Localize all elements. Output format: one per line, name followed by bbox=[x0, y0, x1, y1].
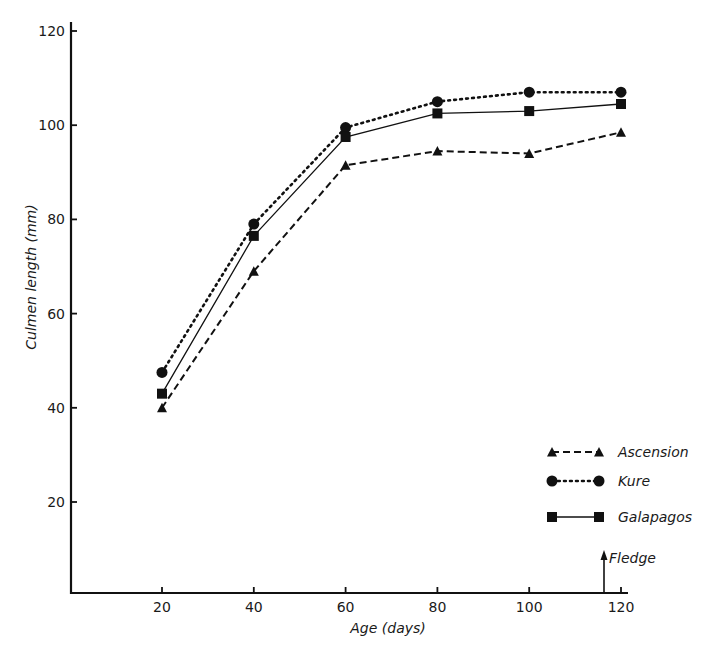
x-tick-label: 60 bbox=[337, 599, 355, 615]
x-axis-label: Age (days) bbox=[349, 620, 426, 636]
legend-item-galapagos: Galapagos bbox=[547, 509, 692, 525]
legend-label: Galapagos bbox=[618, 509, 692, 525]
circle-marker-icon bbox=[594, 476, 605, 487]
square-marker-icon bbox=[524, 106, 534, 116]
legend-item-kure: Kure bbox=[547, 473, 651, 489]
fledge-arrowhead-icon bbox=[601, 550, 608, 560]
square-marker-icon bbox=[616, 99, 626, 109]
circle-marker-icon bbox=[616, 87, 627, 98]
axes: 2040608010012020406080100120 bbox=[38, 22, 634, 615]
y-tick-label: 100 bbox=[38, 117, 65, 133]
circle-marker-icon bbox=[524, 87, 535, 98]
x-tick-label: 80 bbox=[428, 599, 446, 615]
series-kure bbox=[157, 87, 627, 378]
y-tick-label: 40 bbox=[47, 400, 65, 416]
data-series bbox=[157, 87, 627, 413]
legend-label: Ascension bbox=[617, 444, 689, 460]
x-tick-label: 100 bbox=[516, 599, 543, 615]
x-tick-label: 120 bbox=[608, 599, 635, 615]
series-line bbox=[162, 132, 621, 408]
y-tick-label: 120 bbox=[38, 23, 65, 39]
fledge-label: Fledge bbox=[609, 550, 656, 566]
y-axis-label: Culmen length (mm) bbox=[23, 204, 39, 349]
series-galapagos bbox=[157, 99, 626, 399]
y-tick-label: 20 bbox=[47, 494, 65, 510]
circle-marker-icon bbox=[432, 96, 443, 107]
square-marker-icon bbox=[341, 132, 351, 142]
square-marker-icon bbox=[547, 512, 557, 522]
fledge-annotation: Fledge bbox=[601, 550, 656, 592]
series-line bbox=[162, 104, 621, 394]
circle-marker-icon bbox=[157, 367, 168, 378]
square-marker-icon bbox=[432, 108, 442, 118]
circle-marker-icon bbox=[547, 476, 558, 487]
legend-label: Kure bbox=[618, 473, 650, 489]
x-tick-label: 20 bbox=[153, 599, 171, 615]
circle-marker-icon bbox=[340, 122, 351, 133]
x-tick-label: 40 bbox=[245, 599, 263, 615]
circle-marker-icon bbox=[248, 219, 259, 230]
series-line bbox=[162, 92, 621, 372]
triangle-marker-icon bbox=[616, 127, 626, 137]
culmen-length-chart: 2040608010012020406080100120 AscensionKu… bbox=[0, 0, 710, 656]
y-tick-label: 80 bbox=[47, 211, 65, 227]
legend: AscensionKureGalapagos bbox=[547, 444, 693, 525]
y-tick-label: 60 bbox=[47, 306, 65, 322]
square-marker-icon bbox=[594, 512, 604, 522]
square-marker-icon bbox=[157, 389, 167, 399]
series-ascension bbox=[157, 127, 626, 412]
axis-lines bbox=[71, 22, 628, 593]
triangle-marker-icon bbox=[594, 447, 604, 457]
square-marker-icon bbox=[249, 231, 259, 241]
legend-item-ascension: Ascension bbox=[547, 444, 689, 460]
